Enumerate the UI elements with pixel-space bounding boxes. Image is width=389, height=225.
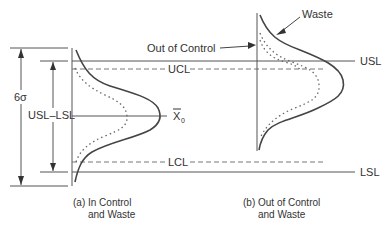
out-of-control-label: Out of Control [147,42,215,54]
x0-label: X 0 [173,109,185,124]
panel-a-in-control: UCL LCL X 0 (a) In Control and Waste [72,48,355,220]
six-sigma-label: 6σ [14,91,27,103]
usl-label: USL [360,55,381,67]
svg-text:0: 0 [181,117,185,124]
svg-text:X: X [173,110,181,122]
out-of-control-arrow-line [220,46,250,48]
panel-b-out-of-control-region [260,40,300,69]
caption-a-line2: and Waste [88,209,136,220]
caption-b-line1: (b) Out of Control [243,197,320,208]
six-sigma-arrow-up-icon [18,49,24,58]
lsl-label: LSL [360,166,380,178]
panel-b-process-curve [259,15,343,150]
usl-lsl-arrow-up-icon [50,62,56,70]
caption-a-line1: (a) In Control [73,197,131,208]
usl-lsl-dimension: USL–LSL [27,61,75,172]
six-sigma-arrow-down-icon [18,176,24,185]
caption-b-line2: and Waste [258,209,306,220]
lcl-label: LCL [168,156,188,168]
waste-label: Waste [302,8,333,20]
control-chart-diagram: 6σ USL–LSL UCL LCL X 0 [0,0,389,225]
waste-arrow-line [282,17,300,31]
usl-lsl-arrow-down-icon [50,163,56,171]
out-of-control-arrow-icon [248,42,256,49]
panel-b-control-curve [260,33,319,138]
usl-lsl-label: USL–LSL [28,109,75,121]
ucl-label: UCL [168,63,190,75]
panel-b-out-of-control: USL LSL Waste Out of Control (b) Out of … [147,8,381,220]
